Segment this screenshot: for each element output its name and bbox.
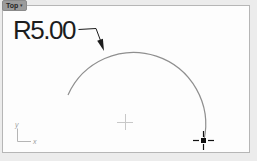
viewport-title-label: Top: [6, 1, 18, 10]
origin-crosshair-marker: [117, 114, 133, 130]
crosshair-cursor: [193, 131, 214, 150]
axis-x-label: x: [32, 138, 37, 145]
dimension-arrowhead-icon: [97, 39, 104, 51]
dimension-leader-line[interactable]: [79, 29, 101, 41]
arc-curve[interactable]: [68, 52, 206, 140]
geometry-layer: y x: [0, 0, 257, 161]
axis-indicator-icon: y x: [14, 121, 37, 145]
viewport-title-tab[interactable]: Top ▾: [2, 0, 27, 11]
chevron-down-icon[interactable]: ▾: [20, 1, 23, 10]
axis-y-label: y: [14, 121, 19, 129]
cad-app-window: { "viewport": { "title_tab": { "label": …: [0, 0, 257, 161]
